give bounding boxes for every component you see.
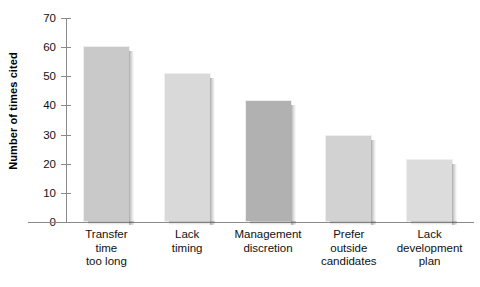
category-label-line: plan (389, 255, 470, 269)
bar-shadow (210, 78, 215, 225)
plot-area (66, 18, 470, 222)
y-axis-tick-label: 50 (28, 70, 56, 82)
category-label-line: timing (147, 242, 228, 256)
y-axis-title-label: Number of times cited (7, 52, 19, 170)
category-label-line: discretion (228, 242, 309, 256)
bar (325, 135, 372, 222)
bar (83, 46, 130, 222)
x-axis-category-label: Transfertimetoo long (66, 228, 147, 269)
bar-shadow (452, 164, 457, 225)
category-label-line: outside (308, 242, 389, 256)
y-axis-tick-label: 30 (28, 129, 56, 141)
category-label-line: Transfer (66, 228, 147, 242)
y-axis-title: Number of times cited (0, 0, 26, 222)
category-label-line: candidates (308, 255, 389, 269)
category-label-line: development (389, 242, 470, 256)
x-axis-category-label: Managementdiscretion (228, 228, 309, 255)
y-axis-tick-label: 40 (28, 99, 56, 111)
y-axis-tick-label: 20 (28, 158, 56, 170)
category-label-line: Prefer (308, 228, 389, 242)
bar-shadow-bottom (169, 221, 215, 225)
bar (245, 100, 292, 222)
category-label-line: Lack (147, 228, 228, 242)
y-axis-tick-label: 10 (28, 187, 56, 199)
category-label-line: Management (228, 228, 309, 242)
x-axis-category-label: Lacktiming (147, 228, 228, 255)
category-label-line: Lack (389, 228, 470, 242)
bar-shadow (371, 140, 376, 225)
category-label-line: time (66, 242, 147, 256)
bar (406, 159, 453, 222)
bar-shadow (291, 105, 296, 225)
y-axis-tick-label: 60 (28, 41, 56, 53)
bar-shadow-bottom (330, 221, 376, 225)
bar-chart: Number of times cited 010203040506070 Tr… (0, 0, 480, 287)
bar-shadow-bottom (411, 221, 457, 225)
bar-shadow-bottom (88, 221, 134, 225)
x-axis-category-label: Lackdevelopmentplan (389, 228, 470, 269)
y-axis-tick-label: 70 (28, 12, 56, 24)
bar (164, 73, 211, 222)
bar-shadow-bottom (250, 221, 296, 225)
x-axis-category-label: Preferoutsidecandidates (308, 228, 389, 269)
category-label-line: too long (66, 255, 147, 269)
bar-shadow (129, 51, 134, 225)
